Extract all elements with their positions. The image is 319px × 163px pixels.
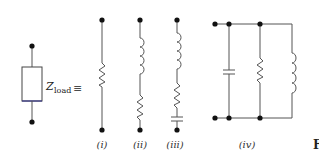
inductor-icon [292,53,296,93]
node [99,17,104,22]
capacitor-icon [171,117,183,121]
nodes [29,17,262,132]
node [99,127,104,132]
node [29,43,34,48]
resistor-icon [257,58,263,83]
zload-symbol: Z [45,80,54,93]
node [137,127,142,132]
circuit-diagram: Z load ≡ (i) (ii) (iii) (iv) F [0,0,319,163]
figure-label-fragment: F [313,138,319,152]
node [226,21,231,26]
inductor-icon [140,38,144,74]
circuit-i [99,20,105,130]
resistor-icon [99,63,105,87]
node [257,21,262,26]
circuit-iv [215,24,296,118]
node [212,115,217,120]
label-iv: (iv) [239,139,256,150]
label-i: (i) [96,139,107,150]
node [226,115,231,120]
equivalence-sign: ≡ [73,82,82,95]
capacitor-icon [223,70,235,74]
label-ii: (ii) [133,139,147,150]
node [212,21,217,26]
node [174,17,179,22]
node [29,119,34,124]
node [174,127,179,132]
resistor-icon [174,83,180,108]
zload-subscript: load [54,86,71,95]
circuit-iii [171,20,183,130]
circuit-ii [137,20,144,130]
node [137,17,142,22]
inductor-icon [177,33,181,69]
zload-box [22,67,42,101]
label-iii: (iii) [166,139,183,150]
resistor-icon [137,95,143,120]
node [257,115,262,120]
